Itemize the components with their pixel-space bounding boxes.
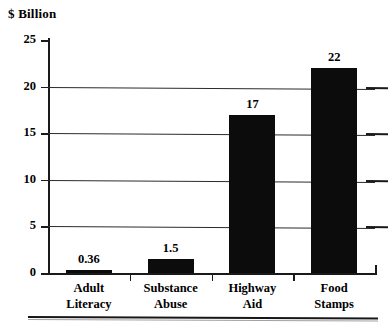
bar-value-label: 1.5 xyxy=(141,242,201,255)
category-label: SubstanceAbuse xyxy=(130,281,212,312)
y-axis-tick-label: 0 xyxy=(4,266,36,279)
y-axis-tick-label: 10 xyxy=(4,173,36,186)
bar-chart: $ Billion 0510152025 0.361.51722 AdultLi… xyxy=(0,0,390,332)
category-label: HighwayAid xyxy=(212,281,294,312)
category-label-line: Abuse xyxy=(130,297,212,313)
y-axis-tick-label: 5 xyxy=(4,219,36,232)
x-axis-tick-mark xyxy=(293,273,295,281)
category-label-line: Aid xyxy=(212,297,294,313)
x-axis-end-cap xyxy=(375,265,377,274)
x-axis-tick-mark xyxy=(212,273,214,281)
bar xyxy=(311,68,357,273)
category-label-line: Adult xyxy=(48,281,130,297)
bar-value-label: 0.36 xyxy=(59,253,119,266)
category-label: FoodStamps xyxy=(293,281,375,312)
y-axis-tick-label: 25 xyxy=(4,33,36,46)
category-label-line: Highway xyxy=(212,281,294,297)
bar-value-label: 17 xyxy=(222,98,282,111)
x-axis-tick-mark xyxy=(130,273,132,281)
plot-area: 0510152025 0.361.51722 xyxy=(48,40,375,273)
bar-value-label: 22 xyxy=(304,51,364,64)
category-label-line: Stamps xyxy=(293,297,375,313)
y-axis-tick-label: 15 xyxy=(4,126,36,139)
category-label-line: Food xyxy=(293,281,375,297)
category-label: AdultLiteracy xyxy=(48,281,130,312)
y-axis-tick-label: 20 xyxy=(4,80,36,93)
bar xyxy=(66,270,112,273)
y-axis-tick-mark xyxy=(41,273,50,275)
y-axis-title: $ Billion xyxy=(8,6,56,22)
bars-layer: 0.361.51722 xyxy=(48,40,375,273)
bar xyxy=(229,115,275,273)
category-label-line: Literacy xyxy=(48,297,130,313)
category-label-line: Substance xyxy=(130,281,212,297)
bar xyxy=(148,259,194,273)
